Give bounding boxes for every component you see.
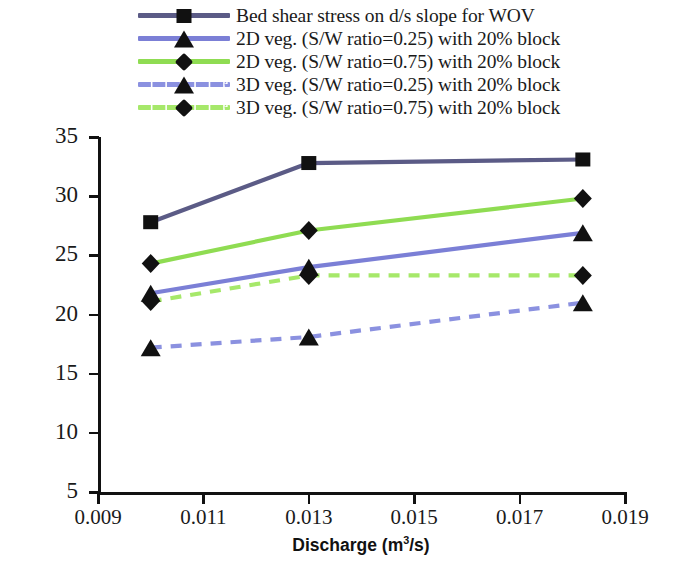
y-tick-label: 35	[32, 124, 78, 147]
series-line-diamond-dashed	[151, 275, 583, 301]
y-tick-label: 30	[32, 183, 78, 206]
marker-diamond	[142, 254, 160, 273]
series-line-triangle-solid	[151, 233, 583, 293]
x-axis-title: Discharge (m3/s)	[96, 534, 626, 556]
x-tick	[308, 494, 311, 504]
y-tick-label: 25	[32, 242, 78, 265]
x-tick-label: 0.015	[374, 506, 454, 528]
x-tick-label: 0.017	[480, 506, 560, 528]
x-tick	[97, 494, 100, 504]
marker-diamond	[300, 221, 318, 240]
marker-diamond	[142, 292, 160, 311]
x-tick-label: 0.013	[269, 506, 349, 528]
series-markers	[141, 294, 593, 356]
x-tick-label: 0.009	[58, 506, 138, 528]
y-tick	[89, 314, 99, 317]
y-tick-label: 10	[32, 420, 78, 443]
marker-diamond	[574, 266, 592, 285]
series-line-triangle-dashed	[151, 303, 583, 348]
marker-square	[143, 215, 158, 229]
y-tick-label: 5	[32, 479, 78, 502]
x-tick-label: 0.019	[585, 506, 665, 528]
series-line-square-solid	[151, 159, 583, 222]
x-tick	[202, 494, 205, 504]
plot-area: 51015202530350.0090.0110.0130.0150.0170.…	[0, 0, 692, 568]
x-tick	[413, 494, 416, 504]
series-layer	[0, 0, 692, 568]
y-tick	[89, 195, 99, 198]
y-tick-label: 15	[32, 361, 78, 384]
marker-square	[301, 156, 316, 170]
chart-figure: Bed shear stress on d/s slope for WOV2D …	[0, 0, 692, 568]
x-tick-label: 0.011	[163, 506, 243, 528]
marker-square	[575, 152, 590, 166]
y-tick-label: 20	[32, 302, 78, 325]
x-tick	[624, 494, 627, 504]
series-markers	[141, 224, 593, 301]
y-tick	[89, 432, 99, 435]
series-line-diamond-solid	[151, 199, 583, 264]
x-tick	[519, 494, 522, 504]
y-tick	[89, 254, 99, 257]
series-markers	[142, 266, 592, 311]
y-tick	[89, 373, 99, 376]
y-tick	[89, 136, 99, 139]
x-axis-line	[98, 492, 627, 495]
marker-diamond	[574, 189, 592, 208]
